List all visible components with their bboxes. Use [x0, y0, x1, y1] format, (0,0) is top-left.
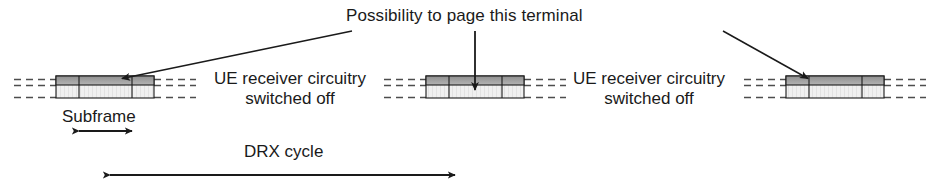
diagram-vector-layer	[0, 0, 939, 191]
block-top-band-right	[786, 76, 884, 85]
on-duration-block-right	[744, 76, 926, 98]
on-duration-block-left	[14, 76, 196, 98]
block-top-band-left	[56, 76, 154, 85]
paging-arrow-right	[723, 31, 808, 79]
diagram-canvas: Possibility to page this terminal UE rec…	[0, 0, 939, 191]
paging-arrow-left	[122, 31, 352, 79]
